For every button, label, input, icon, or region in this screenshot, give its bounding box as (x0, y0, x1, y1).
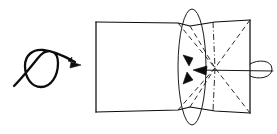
rotation-diagram: Rotation of a rectangular surface into a… (0, 0, 277, 134)
ruling-line-lower-left (178, 68, 215, 110)
ruling-line-upper-right (215, 20, 250, 68)
ruling-line-upper-left (178, 23, 215, 68)
rotation-gesture-symbol (14, 50, 81, 87)
ruling-lines (178, 20, 250, 113)
ruling-line-lower-right (215, 68, 250, 113)
gesture-stroke-path (14, 50, 75, 87)
ruling-line-meridian-upper (213, 22, 215, 68)
ruling-line-waist-upper (190, 26, 215, 68)
direction-arrow-left-icon (193, 66, 207, 75)
direction-arrow-down-icon (183, 55, 193, 66)
rotation-axis-ellipse-horizontal (250, 61, 272, 78)
figure-canvas: Rotation of a rectangular surface into a… (0, 0, 277, 134)
surface-top-edge (96, 20, 250, 26)
ruling-line-meridian-lower (213, 68, 215, 111)
axis-line (196, 70, 273, 71)
direction-arrow-up-icon (183, 72, 193, 84)
ruled-surface-figure (96, 9, 273, 125)
surface-bottom-edge (96, 107, 250, 113)
surface-outline (96, 20, 250, 113)
